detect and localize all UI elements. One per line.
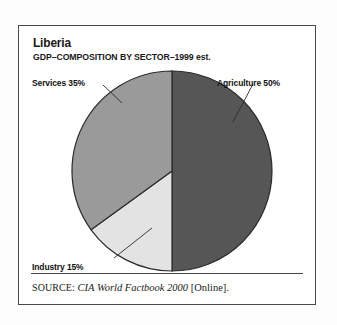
figure-frame: Liberia GDP–COMPOSITION BY SECTOR–1999 e… — [18, 25, 316, 305]
source-note: SOURCE: CIA World Factbook 2000 [Online]… — [32, 282, 229, 293]
figure-page: Liberia GDP–COMPOSITION BY SECTOR–1999 e… — [0, 0, 337, 325]
pie-label-agriculture: Agriculture 50% — [217, 78, 280, 88]
pie-label-industry: Industry 15% — [32, 262, 84, 272]
pie-slice-agriculture[interactable] — [172, 71, 272, 271]
source-keyword: SOURCE: — [32, 282, 75, 293]
pie-label-services: Services 35% — [32, 78, 85, 88]
source-divider — [31, 273, 303, 274]
source-title: CIA World Factbook 2000 — [78, 282, 189, 293]
source-suffix: [Online]. — [191, 282, 229, 293]
pie-chart: Services 35% Agriculture 50% Industry 15… — [19, 26, 315, 304]
